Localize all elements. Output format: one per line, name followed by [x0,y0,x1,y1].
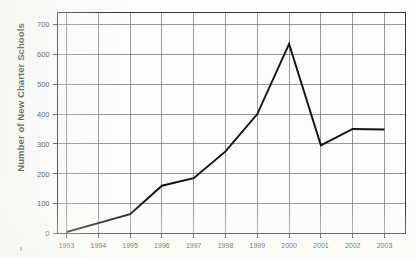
x-tick-label: 1996 [154,242,170,249]
x-tick-label: 1995 [122,242,138,249]
y-tick-label: 700 [37,20,50,29]
y-tick-label: 400 [37,110,50,119]
y-tick-label: 500 [37,80,50,89]
x-tick-label: 1994 [91,242,107,249]
y-tick-label: 300 [37,140,50,149]
y-tick-label: 0 [45,229,49,238]
y-tick-label: 600 [37,50,50,59]
x-tick-label: 1998 [218,242,234,249]
line-chart-plot: 0100200300400500600700 19931994199519961… [0,0,416,258]
x-tick-label: 1999 [250,242,266,249]
x-axis-ticks: 1993199419951996199719981999200020012002… [59,234,393,249]
plot-frame-rect [58,13,406,234]
chart-figure: Number of New Charter Schools 0100200300… [0,0,416,258]
x-tick-label: 2003 [377,242,393,249]
x-tick-label: 1993 [59,242,75,249]
x-tick-label: 2000 [281,242,297,249]
x-tick-label: 2002 [345,242,361,249]
x-tick-label: 2001 [313,242,329,249]
gridlines [58,13,406,234]
scan-artifact-mark [20,247,22,251]
y-tick-label: 100 [37,199,50,208]
y-axis-ticks: 0100200300400500600700 [37,20,58,238]
plot-frame [58,13,406,234]
y-tick-label: 200 [37,170,50,179]
x-tick-label: 1997 [186,242,202,249]
